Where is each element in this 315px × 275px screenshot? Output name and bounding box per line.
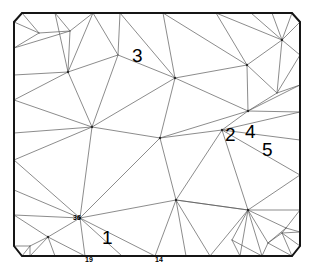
mesh-edge — [175, 78, 248, 111]
mesh-edge — [93, 13, 118, 55]
mesh-edge — [268, 243, 292, 256]
mesh-edge — [118, 55, 175, 78]
mesh-edge — [55, 13, 68, 72]
mesh-edge — [176, 200, 248, 210]
mesh-edge — [286, 228, 300, 232]
mesh-edge — [277, 40, 282, 93]
mesh-edge — [262, 243, 268, 256]
mesh-edge — [160, 138, 176, 200]
mesh-edge — [247, 65, 277, 93]
mesh-edge — [80, 218, 155, 256]
mesh-node — [246, 64, 248, 66]
mesh-edge — [155, 200, 176, 256]
mesh-edge — [160, 130, 222, 138]
mesh-canvas: 32451 361914 — [0, 0, 315, 275]
mesh-edge — [14, 72, 68, 100]
mesh-edge — [216, 13, 247, 65]
label-4: 4 — [245, 121, 256, 142]
mesh-edge — [14, 215, 80, 218]
mesh-node — [221, 129, 223, 131]
mesh-edge — [248, 85, 300, 111]
mesh-figure: 32451 361914 — [0, 0, 315, 275]
mesh-edge — [80, 200, 176, 218]
mesh-edge — [14, 160, 80, 218]
mesh-edge — [30, 237, 48, 256]
mesh-edge — [14, 100, 92, 127]
mesh-edge — [68, 72, 92, 127]
mesh-edge — [80, 218, 122, 256]
mesh-edge — [14, 31, 70, 48]
mesh-node — [91, 126, 93, 128]
mesh-edge — [282, 22, 300, 40]
mesh-edge — [247, 40, 282, 65]
mesh-edge — [163, 13, 175, 78]
mesh-edge — [48, 237, 85, 256]
mesh-edge — [80, 218, 85, 256]
mesh-node — [174, 77, 176, 79]
mesh-edge — [277, 55, 300, 93]
mesh-edge — [68, 31, 70, 72]
mesh-edge — [80, 127, 92, 218]
mesh-node — [67, 71, 69, 73]
mesh-edge — [30, 237, 48, 246]
mesh-edge — [248, 175, 300, 210]
label-36: 36 — [73, 214, 81, 221]
mesh-node — [175, 199, 177, 201]
mesh-edge — [282, 40, 300, 55]
mesh-edge — [92, 127, 160, 138]
mesh-edge — [282, 232, 300, 233]
mesh-edge — [282, 13, 292, 40]
mesh-node — [247, 110, 249, 112]
mesh-edge — [120, 13, 175, 78]
mesh-node — [47, 236, 49, 238]
mesh-edge — [92, 55, 118, 127]
mesh-edge — [68, 13, 93, 72]
mesh-edge — [92, 78, 175, 127]
mesh-edge — [248, 111, 300, 112]
mesh-edge — [22, 13, 39, 33]
mesh-edge — [14, 215, 48, 237]
label-5: 5 — [262, 139, 273, 160]
mesh-node — [281, 39, 283, 41]
label-3: 3 — [132, 45, 143, 66]
mesh-edge — [216, 13, 282, 40]
mesh-edge — [286, 210, 300, 228]
mesh-edge — [247, 65, 248, 111]
mesh-edge — [14, 22, 39, 33]
mesh-interior-edges — [14, 13, 300, 256]
label-1: 1 — [102, 227, 113, 248]
mesh-edge — [248, 93, 277, 111]
label-2: 2 — [225, 124, 236, 145]
mesh-edge — [118, 13, 120, 55]
label-14: 14 — [155, 256, 163, 263]
mesh-edge — [14, 190, 80, 218]
mesh-edge — [176, 130, 222, 200]
label-19: 19 — [85, 256, 93, 263]
mesh-edge — [22, 246, 30, 256]
mesh-edge — [14, 72, 68, 75]
mesh-edge — [80, 138, 160, 218]
mesh-node — [159, 137, 161, 139]
mesh-edge — [160, 78, 175, 138]
mesh-edge — [68, 55, 118, 72]
mesh-edge — [14, 33, 39, 48]
mesh-edge — [175, 65, 247, 78]
mesh-node — [247, 209, 249, 211]
mesh-edge — [210, 210, 248, 256]
mesh-edge — [248, 210, 262, 256]
mesh-edge — [277, 85, 300, 93]
